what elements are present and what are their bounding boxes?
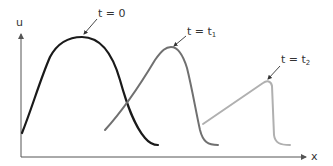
curve-t0-label: t = 0 (98, 7, 126, 20)
curve-t1-label: t = t1 (187, 25, 216, 39)
curve-t2-path (203, 81, 290, 145)
curve-t2: t = t2 (203, 53, 310, 145)
curve-t2-label: t = t2 (281, 53, 310, 67)
y-axis-label: u (16, 16, 23, 29)
curve-t0: t = 0 (22, 7, 158, 145)
wave-steepening-diagram: u x t = 0 t = t1 t = t2 (0, 0, 333, 166)
curve-t0-pointer-arrow (84, 19, 97, 34)
curve-t2-pointer-arrow (268, 66, 280, 79)
curve-t0-path (22, 37, 158, 145)
x-axis-label: x (311, 150, 318, 163)
curve-t1-path (105, 47, 218, 145)
curve-t1-pointer-arrow (174, 36, 186, 46)
